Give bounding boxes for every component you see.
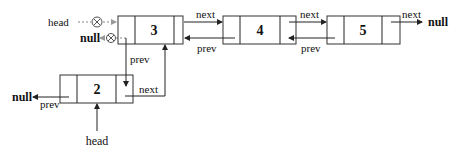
svg-text:prev: prev (197, 42, 217, 54)
node-value: 4 (257, 23, 264, 38)
old-head-label: head (48, 16, 69, 28)
svg-text:next: next (402, 8, 421, 20)
new-head-label: head (86, 134, 109, 148)
old-null-label: null (80, 31, 101, 45)
node-3: 3 (118, 16, 183, 44)
old-null-pointer: null (80, 31, 126, 45)
edge-4-next-5: next (289, 8, 326, 22)
node-4: 4 (223, 16, 296, 44)
crossed-circle-icon (92, 17, 102, 27)
svg-text:next: next (139, 83, 158, 95)
edge-3-prev-2: prev (126, 38, 150, 86)
new-null-label: null (12, 90, 33, 104)
node-value: 2 (94, 82, 101, 97)
linked-list-diagram: head null 3 4 5 (0, 0, 456, 157)
old-head-pointer: head (48, 16, 116, 28)
svg-text:prev: prev (301, 42, 321, 54)
edge-4-prev-3: prev (185, 38, 235, 54)
crossed-circle-icon (107, 34, 116, 43)
svg-text:next: next (196, 8, 215, 20)
node-2: 2 (60, 75, 133, 103)
tail-null-label: null (428, 15, 449, 29)
svg-text:prev: prev (40, 98, 60, 110)
svg-text:prev: prev (130, 53, 150, 65)
new-head-pointer: head (86, 104, 109, 148)
edge-3-next-4: next (184, 8, 222, 22)
node-5: 5 (327, 16, 400, 44)
svg-text:next: next (300, 8, 319, 20)
node-value: 3 (151, 23, 158, 38)
node-value: 5 (360, 23, 367, 38)
